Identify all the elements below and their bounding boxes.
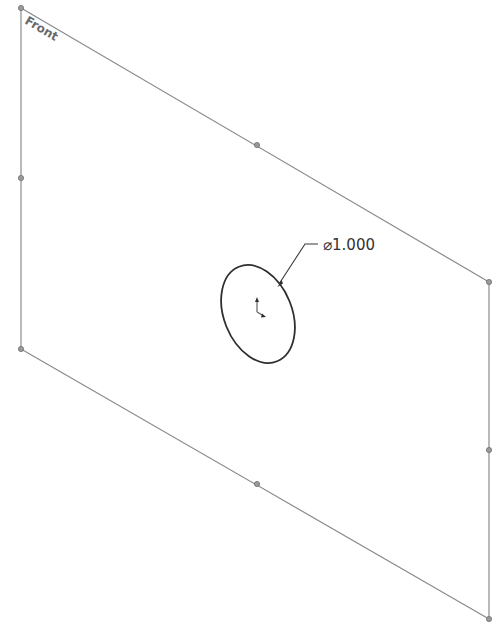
origin-icon <box>255 297 266 318</box>
sketch-circle[interactable] <box>207 254 308 374</box>
vertex-bottom-left[interactable] <box>18 346 23 351</box>
midpoint-top[interactable] <box>254 142 259 147</box>
sketch-canvas[interactable]: Front ⌀1.000 <box>0 0 499 623</box>
vertex-bottom-right[interactable] <box>486 616 491 621</box>
front-plane[interactable]: Front <box>18 5 491 621</box>
dimension-value[interactable]: ⌀1.000 <box>323 236 375 254</box>
diameter-dimension[interactable]: ⌀1.000 <box>278 236 375 287</box>
vertex-top-right[interactable] <box>486 279 491 284</box>
midpoint-right[interactable] <box>486 447 491 452</box>
midpoint-left[interactable] <box>18 175 23 180</box>
plane-label: Front <box>22 14 60 44</box>
vertex-top-left[interactable] <box>18 5 23 10</box>
dimension-leader-line <box>279 244 318 284</box>
midpoint-bottom[interactable] <box>254 481 259 486</box>
